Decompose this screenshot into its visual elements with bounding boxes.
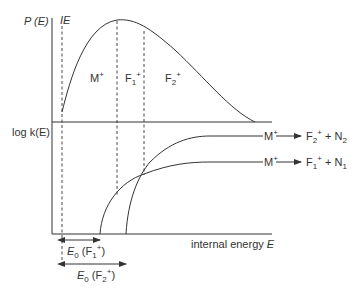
pe-axis-label: P (E) xyxy=(24,15,49,27)
reactant: M xyxy=(264,156,273,168)
k-curve-f2 xyxy=(126,136,263,234)
x-axis-label: internal energy E xyxy=(191,238,274,250)
species-sub: 2 xyxy=(102,275,106,284)
ie-label: IE xyxy=(60,14,70,26)
region-f2-text: F xyxy=(165,72,172,84)
charge: + xyxy=(99,70,104,79)
neutral-sub: 2 xyxy=(342,136,346,145)
diagram-canvas xyxy=(0,0,361,294)
region-m: M+ xyxy=(90,72,104,84)
x-axis-text: internal energy xyxy=(191,238,267,250)
reaction-label-2-reactant: M+ xyxy=(264,156,278,168)
charge: + xyxy=(273,128,278,137)
charge: + xyxy=(136,70,141,79)
e0-f1-label: E0 (F1+) xyxy=(67,245,105,257)
reaction-label-1-reactant: M+ xyxy=(264,130,278,142)
reaction-label-1-products: F2+ + N2 xyxy=(306,130,347,142)
logk-axis-label: log k(E) xyxy=(12,126,50,138)
x-axis-var: E xyxy=(267,238,274,250)
product-sub: 1 xyxy=(313,162,317,171)
region-m-text: M xyxy=(90,72,99,84)
pe-distribution-curve xyxy=(62,20,255,122)
logk-text: log k(E) xyxy=(12,126,50,138)
charge: + xyxy=(317,154,322,163)
charge: + xyxy=(273,154,278,163)
charge: + xyxy=(107,267,112,276)
e-sub: 0 xyxy=(74,251,78,260)
region-f2: F2+ xyxy=(165,72,181,84)
charge: + xyxy=(97,243,102,252)
product-sub: 2 xyxy=(313,136,317,145)
charge: + xyxy=(176,70,181,79)
region-f1: F1+ xyxy=(125,72,141,84)
region-f1-text: F xyxy=(125,72,132,84)
charge: + xyxy=(317,128,322,137)
product: F xyxy=(306,130,313,142)
plus: + xyxy=(325,130,331,142)
e0-f2-label: E0 (F2+) xyxy=(77,269,115,281)
plus: + xyxy=(325,156,331,168)
reaction-label-2-products: F1+ + N1 xyxy=(306,156,347,168)
product: F xyxy=(306,156,313,168)
reactant: M xyxy=(264,130,273,142)
neutral-sub: 1 xyxy=(342,162,346,171)
k-curve-f1 xyxy=(100,162,263,234)
species-sub: 1 xyxy=(92,251,96,260)
e-sub: 0 xyxy=(84,275,88,284)
